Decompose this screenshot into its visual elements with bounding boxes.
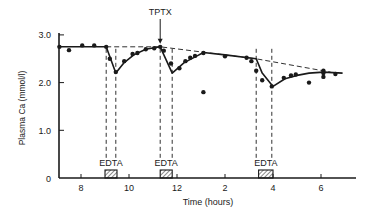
edta-label: EDTA xyxy=(155,158,178,168)
y-tick-label: 1.0 xyxy=(38,126,51,136)
edta-infusion-bar xyxy=(105,170,117,178)
data-point xyxy=(130,52,134,56)
data-point xyxy=(108,57,112,61)
x-tick-label: 2 xyxy=(222,183,227,193)
y-axis-label: Plasma Ca (mmol/l) xyxy=(17,71,27,146)
data-point xyxy=(244,56,248,60)
data-point xyxy=(183,59,187,63)
data-point xyxy=(122,59,126,63)
annotations: TPTXEDTAEDTAEDTA xyxy=(99,7,277,178)
x-tick-label: 12 xyxy=(172,183,182,193)
data-point xyxy=(162,48,166,52)
axes: 01.02.03.081012246 xyxy=(38,30,356,193)
data-point xyxy=(223,54,227,58)
x-tick-label: 4 xyxy=(270,183,275,193)
data-point xyxy=(321,75,325,79)
data-point xyxy=(270,84,274,88)
data-point xyxy=(188,56,192,60)
data-point xyxy=(152,46,156,50)
data-point xyxy=(282,76,286,80)
tptx-arrow-head xyxy=(158,39,163,44)
x-tick-label: 6 xyxy=(318,183,323,193)
edta-label: EDTA xyxy=(99,158,122,168)
plasma-calcium-chart: 01.02.03.081012246 TPTXEDTAEDTAEDTA Plas… xyxy=(0,0,370,214)
data-point xyxy=(80,43,84,47)
data-point xyxy=(201,90,205,94)
data-point xyxy=(321,68,325,72)
data-point xyxy=(289,73,293,77)
data-point xyxy=(114,70,118,74)
baseline-trend xyxy=(106,47,330,72)
baseline-trend-line xyxy=(106,47,330,72)
data-point xyxy=(169,61,173,65)
data-point xyxy=(144,47,148,51)
data-point xyxy=(254,68,258,72)
y-tick-label: 3.0 xyxy=(38,30,51,40)
edta-dashed-lines xyxy=(106,49,272,158)
data-point xyxy=(158,45,162,49)
edta-infusion-bar xyxy=(160,170,172,178)
data-point xyxy=(260,78,264,82)
edta-infusion-bar xyxy=(259,170,273,178)
y-tick-label: 2.0 xyxy=(38,78,51,88)
x-axis-label: Time (hours) xyxy=(183,197,234,207)
data-point xyxy=(135,51,139,55)
tptx-label: TPTX xyxy=(149,7,172,17)
x-tick-label: 8 xyxy=(78,183,83,193)
data-point xyxy=(92,43,96,47)
edta-label: EDTA xyxy=(254,158,277,168)
data-point xyxy=(294,72,298,76)
data-point xyxy=(201,51,205,55)
x-tick-label: 10 xyxy=(124,183,134,193)
data-point xyxy=(249,59,253,63)
data-point xyxy=(193,54,197,58)
y-tick-label: 0 xyxy=(46,174,51,184)
data-points xyxy=(57,43,337,94)
data-point xyxy=(307,80,311,84)
data-point xyxy=(57,45,61,49)
data-point xyxy=(67,48,71,52)
data-point xyxy=(104,45,108,49)
data-point xyxy=(333,72,337,76)
data-point xyxy=(177,66,181,70)
